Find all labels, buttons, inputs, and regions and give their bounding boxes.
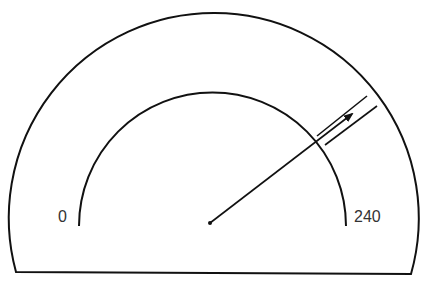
max-scale-label: 240 xyxy=(354,209,381,225)
channel-line-upper xyxy=(317,96,367,136)
outer-housing-outline xyxy=(9,13,419,274)
gauge-drawing xyxy=(0,0,432,287)
speedometer-diagram: 0 240 xyxy=(0,0,432,287)
channel-line-lower xyxy=(325,106,377,145)
inner-dial-arc xyxy=(79,93,346,227)
min-scale-label: 0 xyxy=(58,209,67,225)
needle xyxy=(210,114,352,223)
needle-pivot xyxy=(208,221,212,225)
